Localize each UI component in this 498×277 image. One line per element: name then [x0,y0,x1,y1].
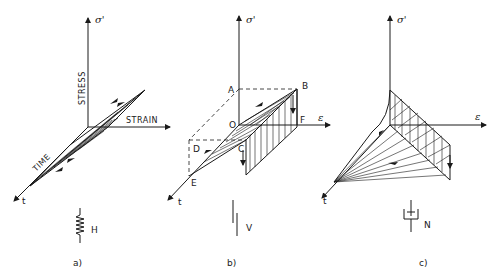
spring-icon [76,208,84,243]
spring-label: H [91,225,98,235]
point-f-label: F [300,115,305,125]
point-o-label: O [229,120,236,130]
point-c-label: C [238,144,244,154]
panel-b-saint-venant: σ' ε t [168,14,330,268]
panel-a-caption: a) [73,258,82,268]
point-b-label: B [302,81,308,91]
rheological-models-diagram: σ' STRESS STRAIN TIME t [0,0,498,277]
viscous-surface [334,90,450,182]
panel-c-caption: c) [419,258,427,268]
time-axis [168,125,239,200]
strain-symbol: ε [318,112,323,123]
stress-symbol: σ' [246,14,256,25]
point-d-label: D [193,144,200,154]
time-symbol: t [323,196,327,206]
dashpot-label: N [424,220,431,230]
panel-c-newton: σ' ε t [322,14,486,268]
time-axis [322,125,390,198]
time-symbol: t [178,197,182,207]
dashpot-icon [404,200,418,232]
stress-symbol: σ' [95,14,105,25]
slider-icon [233,200,237,236]
time-symbol: t [22,196,26,206]
point-a-label: A [228,85,235,95]
strain-axis-label: STRAIN [126,116,158,125]
strain-symbol: ε [475,111,480,122]
panel-a-hooke: σ' STRESS STRAIN TIME t [14,14,170,268]
panel-b-caption: b) [227,258,236,268]
stress-axis-label: STRESS [78,71,87,105]
stress-symbol: σ' [397,14,407,25]
plastic-surface [189,89,297,176]
slider-label: V [246,223,253,233]
point-e-label: E [191,178,197,188]
